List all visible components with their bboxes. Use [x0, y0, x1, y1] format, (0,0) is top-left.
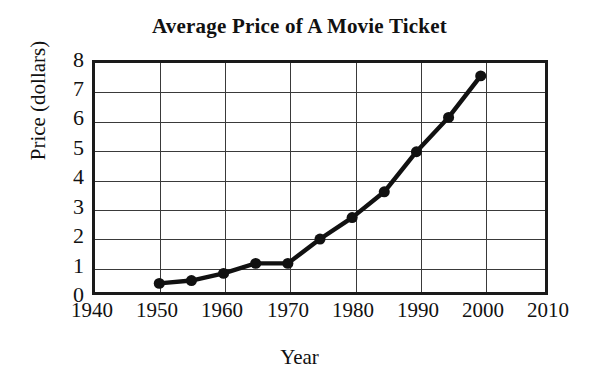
data-point-1960 [218, 268, 229, 279]
data-point-1955 [186, 275, 197, 286]
y-tick-2: 2 [50, 225, 84, 247]
y-tick-3: 3 [50, 196, 84, 218]
y-tick-8: 8 [50, 49, 84, 71]
x-tick-1940: 1940 [57, 300, 127, 321]
chart-page: Average Price of A Movie Ticket Price (d… [0, 0, 599, 384]
data-point-1950 [154, 278, 165, 289]
data-series-plot [95, 63, 545, 292]
y-axis-title: Price (dollars) [26, 1, 51, 201]
x-tick-1950: 1950 [122, 300, 192, 321]
x-tick-2000: 2000 [448, 300, 518, 321]
x-axis-title: Year [0, 345, 599, 370]
data-point-1980 [347, 212, 358, 223]
y-tick-4: 4 [50, 166, 84, 188]
data-point-1975 [314, 234, 325, 245]
y-tick-7: 7 [50, 78, 84, 100]
data-point-1985 [379, 186, 390, 197]
y-tick-1: 1 [50, 255, 84, 277]
plot-area [92, 60, 548, 295]
series-line-0 [159, 76, 480, 284]
y-tick-5: 5 [50, 137, 84, 159]
x-tick-1960: 1960 [187, 300, 257, 321]
y-tick-6: 6 [50, 107, 84, 129]
x-tick-1990: 1990 [383, 300, 453, 321]
data-point-1995 [443, 112, 454, 123]
data-point-1990 [411, 146, 422, 157]
data-point-2000 [475, 70, 486, 81]
data-point-1970 [282, 258, 293, 269]
x-tick-1980: 1980 [318, 300, 388, 321]
x-tick-2010: 2010 [513, 300, 583, 321]
x-tick-1970: 1970 [253, 300, 323, 321]
page-title: Average Price of A Movie Ticket [0, 14, 599, 39]
data-point-1965 [250, 258, 261, 269]
